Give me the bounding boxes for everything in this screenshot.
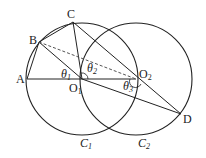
segment-b-c (39, 22, 73, 42)
label-c: C (67, 7, 75, 21)
label-theta1: θ1 (61, 67, 71, 82)
label-a: A (16, 72, 25, 86)
label-c1: C1 (80, 136, 92, 151)
label-o2: O2 (139, 67, 152, 82)
label-b: B (29, 33, 37, 47)
diagram-svg: A B C D O1 O2 θ1 θ2 θ3 C1 C2 (0, 0, 206, 158)
segment-c-o1 (73, 22, 82, 79)
label-c2: C2 (138, 136, 150, 151)
geometry-diagram: A B C D O1 O2 θ1 θ2 θ3 C1 C2 (0, 0, 206, 158)
label-d: D (183, 112, 192, 126)
label-theta3: θ3 (123, 79, 133, 94)
